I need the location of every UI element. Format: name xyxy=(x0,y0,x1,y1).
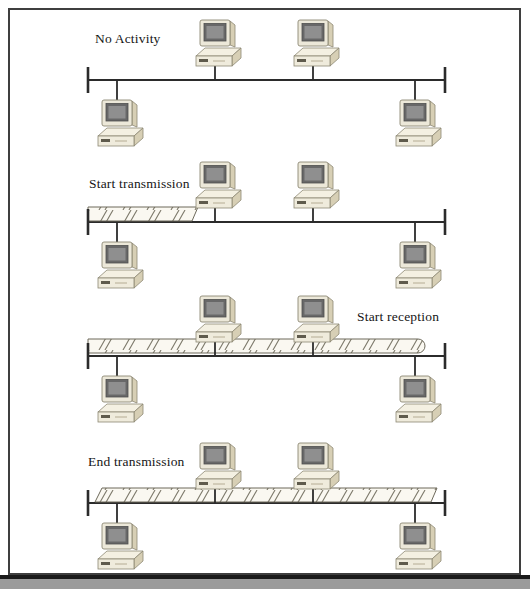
signal-bar xyxy=(88,207,198,221)
computer-icon xyxy=(294,296,339,342)
panel-label-no-activity: No Activity xyxy=(95,31,161,47)
figure-canvas: No Activity Start transmission Start rec… xyxy=(0,0,530,589)
computer-icon xyxy=(294,162,339,208)
computer-icon xyxy=(396,242,441,288)
computer-icon xyxy=(196,296,241,342)
computer-icon xyxy=(98,242,143,288)
computer-icon xyxy=(196,20,241,66)
panel-label-start-reception: Start reception xyxy=(357,309,439,325)
bus-network-diagram xyxy=(0,0,530,589)
panel-label-start-transmission: Start transmission xyxy=(89,176,190,192)
computer-icon xyxy=(98,523,143,569)
computer-icon xyxy=(396,376,441,422)
panel-label-end-transmission: End transmission xyxy=(88,454,185,470)
computer-icon xyxy=(396,523,441,569)
computer-icon xyxy=(396,100,441,146)
computer-icon xyxy=(98,100,143,146)
computer-icon xyxy=(98,376,143,422)
computer-icon xyxy=(294,443,339,489)
signal-bar xyxy=(88,339,425,353)
signal-bar xyxy=(95,488,437,502)
computer-icon xyxy=(196,162,241,208)
bottom-page-bar xyxy=(0,575,530,589)
computer-icon xyxy=(294,20,339,66)
computer-icon xyxy=(196,443,241,489)
